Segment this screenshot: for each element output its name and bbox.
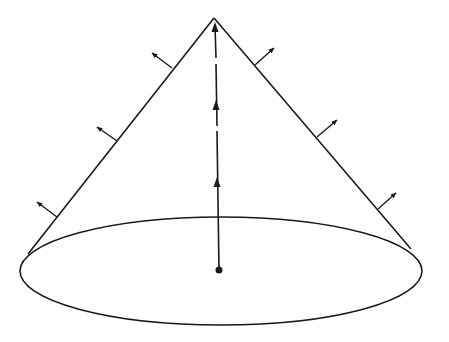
axis-segment — [216, 64, 217, 126]
cone-right-edge — [214, 18, 411, 249]
normal-arrow-icon-left — [97, 127, 117, 141]
normal-arrow-icon-right — [255, 48, 274, 65]
normal-arrow-icon-right — [378, 193, 396, 209]
base-center-dot — [216, 267, 223, 274]
cone-left-edge — [28, 18, 214, 254]
normal-arrow-icon-left — [37, 202, 57, 217]
cone-diagram — [0, 0, 449, 342]
cone-figure — [0, 0, 449, 342]
normal-arrow-icon-left — [152, 53, 172, 68]
normal-arrow-icon-right — [317, 120, 337, 137]
axis-arrow-icon — [214, 177, 221, 187]
axis-arrow-icon — [213, 100, 220, 110]
axis-segment — [217, 131, 219, 270]
cone-axis — [212, 22, 221, 270]
axis-arrow-icon — [212, 22, 219, 32]
